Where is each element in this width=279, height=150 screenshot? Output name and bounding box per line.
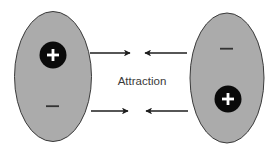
right-molecule: [190, 13, 264, 143]
left-negative-charge-icon: [46, 105, 59, 107]
attraction-diagram: Attraction: [0, 0, 279, 150]
left-molecule: [15, 12, 92, 142]
left-molecule-body: [15, 12, 92, 142]
right-negative-charge-icon: [220, 48, 233, 50]
attraction-label: Attraction: [118, 75, 167, 87]
left-positive-charge-icon: [40, 42, 67, 69]
right-positive-charge-icon: [215, 86, 242, 113]
right-molecule-body: [190, 13, 264, 143]
